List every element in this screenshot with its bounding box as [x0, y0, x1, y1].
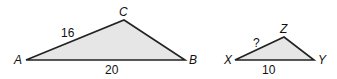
triangle-xyz-shape [235, 37, 314, 60]
vertex-label-b: B [189, 53, 197, 67]
vertex-label-a: A [13, 53, 22, 67]
triangle-abc: A B C 16 20 [13, 5, 197, 77]
side-label-ab: 20 [105, 63, 119, 77]
vertex-label-z: Z [279, 22, 288, 36]
triangle-abc-shape [26, 20, 185, 60]
side-label-xz: ? [253, 36, 260, 50]
vertex-label-y: Y [318, 53, 327, 67]
side-label-xy: 10 [262, 63, 276, 77]
vertex-label-x: X [223, 53, 233, 67]
side-label-ac: 16 [61, 26, 75, 40]
triangle-xyz: X Y Z ? 10 [223, 22, 327, 77]
vertex-label-c: C [119, 5, 128, 19]
similar-triangles-diagram: A B C 16 20 X Y Z ? 10 [0, 0, 337, 79]
